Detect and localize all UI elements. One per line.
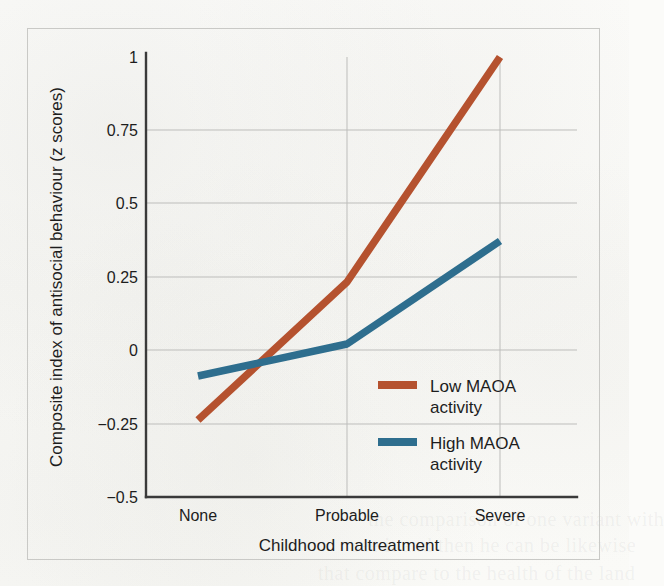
y-tick-label: 1	[129, 49, 138, 66]
legend-label-low-maoa-line1: Low MAOA	[430, 377, 517, 396]
axis-lines	[146, 53, 577, 497]
x-tick-label: None	[179, 507, 217, 524]
gridlines-horizontal	[146, 57, 577, 424]
y-tick-label: 0.75	[107, 122, 138, 139]
legend-item-high-maoa: High MAOA activity	[378, 434, 520, 474]
x-tick-label: Severe	[475, 507, 526, 524]
legend-label-high-maoa-line1: High MAOA	[430, 434, 520, 453]
y-axis-title: Composite index of antisocial behaviour …	[47, 87, 66, 467]
x-tick-label: Probable	[315, 507, 379, 524]
legend-label-low-maoa-line2: activity	[430, 398, 482, 417]
y-tick-label: 0	[129, 342, 138, 359]
series-line-high-maoa	[198, 241, 500, 376]
legend: Low MAOA activity High MAOA activity	[378, 377, 520, 474]
x-axis-title: Childhood maltreatment	[259, 536, 440, 555]
y-tick-labels: 1 0.75 0.5 0.25 0 −0.25 −0.5	[98, 49, 139, 506]
legend-label-high-maoa-line2: activity	[430, 455, 482, 474]
x-tick-labels: None Probable Severe	[179, 507, 526, 524]
y-tick-label: 0.25	[107, 269, 138, 286]
legend-item-low-maoa: Low MAOA activity	[378, 377, 517, 417]
y-tick-label: −0.25	[98, 416, 139, 433]
y-tick-label: 0.5	[116, 195, 138, 212]
y-tick-label: −0.5	[106, 489, 138, 506]
